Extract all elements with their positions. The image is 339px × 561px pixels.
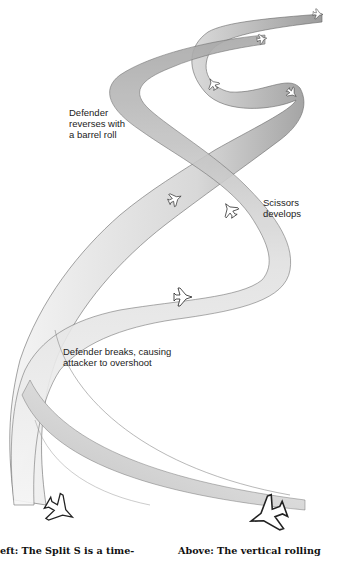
caption-right: Above: The vertical rolling bbox=[178, 545, 321, 556]
label-break: Defender breaks, causing attacker to ove… bbox=[63, 346, 171, 368]
caption-left: eft: The Split S is a time- bbox=[0, 545, 134, 556]
aircraft-bottom-left-icon bbox=[40, 490, 79, 529]
label-scissors: Scissors develops bbox=[263, 197, 301, 219]
maneuver-diagram bbox=[0, 0, 339, 561]
aircraft-mid-right-icon bbox=[219, 199, 240, 220]
label-barrel-roll: Defender reverses with a barrel roll bbox=[69, 107, 125, 140]
